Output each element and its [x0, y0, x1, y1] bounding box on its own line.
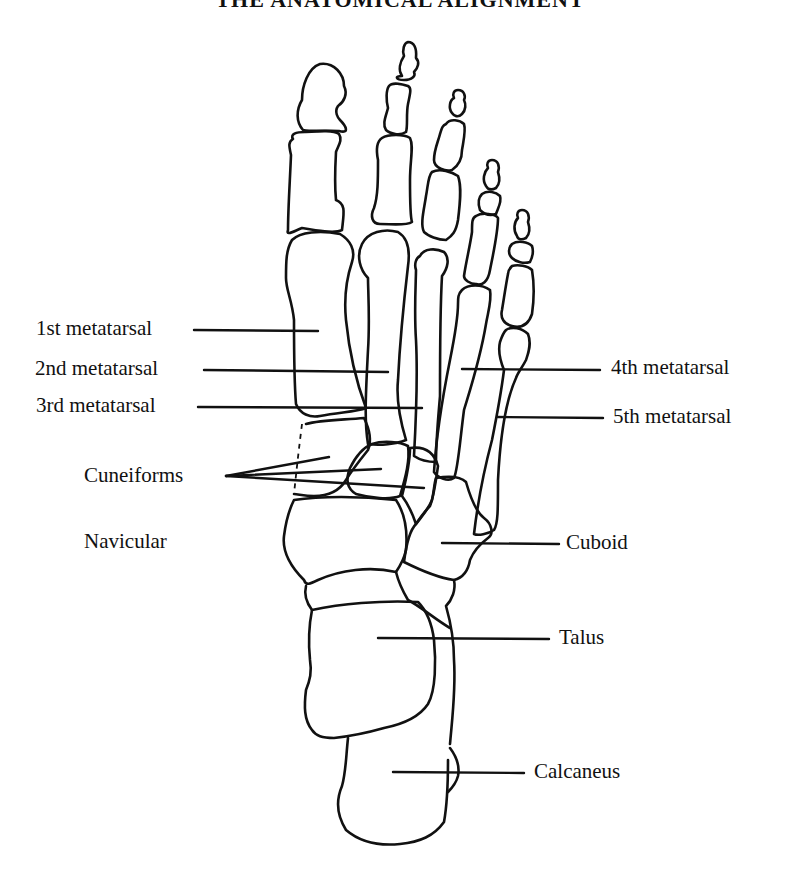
hallux-distal-phalanx [298, 64, 346, 132]
calcaneus [338, 738, 448, 844]
metatarsal-bones [286, 231, 530, 535]
leader-3rd-metatarsal [198, 407, 422, 408]
third-metatarsal [414, 249, 448, 462]
leader-talus [378, 638, 549, 639]
fifth-toe-bones [501, 210, 533, 327]
talus-lateral-edge [446, 580, 455, 744]
label-third-metatarsal: 3rd metatarsal [36, 395, 156, 416]
leader-cuboid [442, 543, 559, 544]
label-talus: Talus [559, 627, 604, 648]
leader-2nd-metatarsal [204, 370, 388, 372]
label-fourth-metatarsal: 4th metatarsal [611, 357, 729, 378]
cuboid [404, 477, 491, 580]
hallux-proximal-phalanx [288, 131, 344, 233]
label-navicular: Navicular [84, 531, 167, 552]
label-second-metatarsal: 2nd metatarsal [35, 358, 158, 379]
navicular [284, 497, 407, 584]
second-toe-bones [372, 42, 418, 225]
calcaneus-tubercle [448, 748, 459, 792]
label-fifth-metatarsal: 5th metatarsal [613, 406, 731, 427]
leader-1st-metatarsal [194, 330, 318, 331]
second-metatarsal [359, 231, 409, 445]
talus [305, 601, 435, 738]
leader-4th-metatarsal [462, 369, 600, 370]
fourth-metatarsal [434, 286, 491, 480]
leader-5th-metatarsal [498, 417, 603, 418]
label-calcaneus: Calcaneus [534, 761, 620, 782]
fifth-metatarsal [474, 328, 530, 535]
leader-cuneiform-lateral [226, 476, 424, 488]
foot-skeleton-diagram [0, 0, 800, 879]
fourth-toe-bones [464, 160, 501, 284]
label-first-metatarsal: 1st metatarsal [36, 318, 152, 339]
cuneiform-dashed-edge [294, 424, 302, 494]
third-toe-bones [422, 90, 465, 240]
first-metatarsal [286, 232, 366, 417]
leader-calcaneus [393, 772, 524, 773]
label-cuneiforms: Cuneiforms [84, 465, 183, 486]
label-cuboid: Cuboid [566, 532, 628, 553]
hallux-bones [288, 64, 346, 233]
